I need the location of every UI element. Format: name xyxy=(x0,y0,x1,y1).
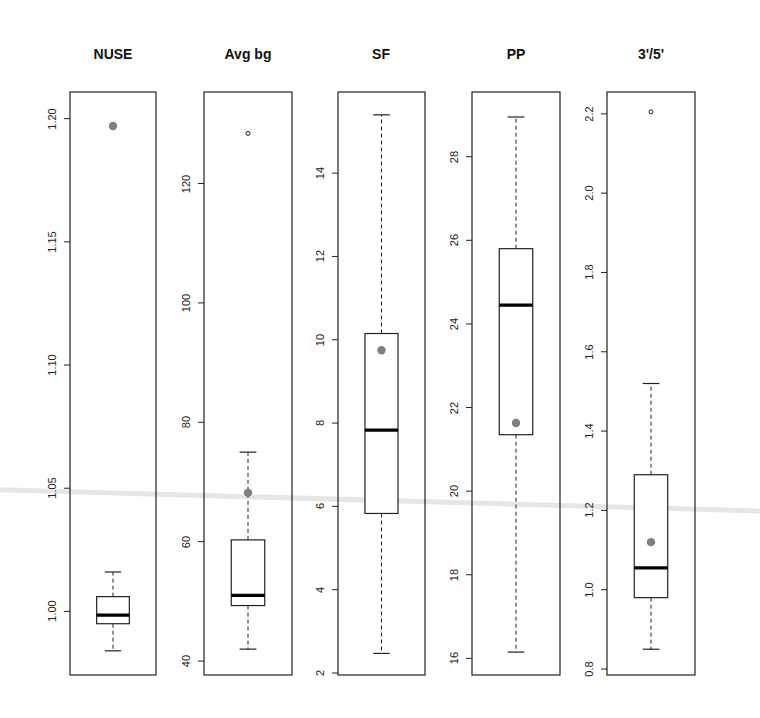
iqr-box xyxy=(634,475,667,598)
y-tick-label: 1.8 xyxy=(582,252,596,292)
y-tick-label: 40 xyxy=(179,641,193,681)
y-tick-label: 4 xyxy=(313,570,327,610)
y-tick-label: 100 xyxy=(179,283,193,323)
y-tick-label: 24 xyxy=(447,304,461,344)
y-tick-label: 28 xyxy=(447,137,461,177)
panel-title: 3'/5' xyxy=(611,46,691,62)
y-tick-label: 1.4 xyxy=(582,411,596,451)
y-tick-label: 1.05 xyxy=(45,468,59,508)
mean-dot xyxy=(647,538,655,546)
y-tick-label: 8 xyxy=(313,403,327,443)
y-tick-label: 120 xyxy=(179,164,193,204)
mean-dot xyxy=(512,419,520,427)
panel-title: SF xyxy=(341,46,421,62)
y-tick-label: 2.2 xyxy=(582,94,596,134)
iqr-box xyxy=(97,597,130,624)
y-tick-label: 1.0 xyxy=(582,570,596,610)
y-tick-label: 60 xyxy=(179,522,193,562)
iqr-box xyxy=(499,249,532,435)
y-tick-label: 1.6 xyxy=(582,332,596,372)
y-tick-label: 1.15 xyxy=(45,222,59,262)
y-tick-label: 16 xyxy=(447,638,461,678)
y-tick-label: 2.0 xyxy=(582,173,596,213)
panel-title: PP xyxy=(476,46,556,62)
y-tick-label: 18 xyxy=(447,555,461,595)
y-tick-label: 14 xyxy=(313,153,327,193)
y-tick-label: 1.00 xyxy=(45,591,59,631)
outlier-point xyxy=(649,110,653,114)
outlier-point xyxy=(246,131,250,135)
iqr-box xyxy=(365,334,398,514)
y-tick-label: 2 xyxy=(313,653,327,693)
y-tick-label: 0.8 xyxy=(582,649,596,689)
y-tick-label: 20 xyxy=(447,471,461,511)
y-tick-label: 10 xyxy=(313,320,327,360)
y-tick-label: 12 xyxy=(313,236,327,276)
panel-title: NUSE xyxy=(73,46,153,62)
y-tick-label: 6 xyxy=(313,486,327,526)
mean-dot xyxy=(244,489,252,497)
panel-title: Avg bg xyxy=(208,46,288,62)
y-tick-label: 80 xyxy=(179,402,193,442)
mean-dot xyxy=(377,346,385,354)
y-tick-label: 26 xyxy=(447,220,461,260)
y-tick-label: 1.10 xyxy=(45,345,59,385)
y-tick-label: 1.20 xyxy=(45,99,59,139)
y-tick-label: 1.2 xyxy=(582,490,596,530)
mean-dot xyxy=(109,122,117,130)
y-tick-label: 22 xyxy=(447,388,461,428)
